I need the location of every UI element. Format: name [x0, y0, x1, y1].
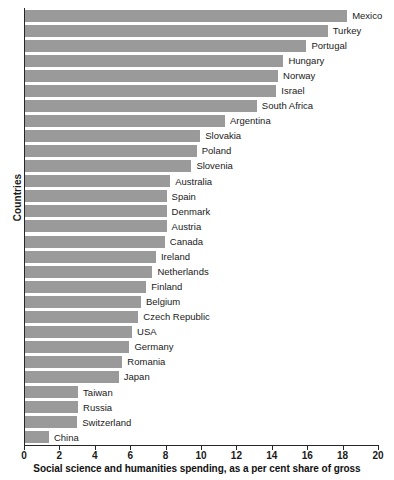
- x-tick-label: 18: [337, 451, 348, 461]
- bar-row: Portugal: [25, 38, 347, 53]
- bar-category-label: Canada: [165, 237, 203, 247]
- bar-category-label: Australia: [170, 177, 212, 187]
- bar-row: Mexico: [25, 8, 382, 23]
- bar: [25, 10, 347, 22]
- bar: [25, 100, 257, 112]
- x-tick-label: 12: [231, 451, 242, 461]
- bar: [25, 416, 77, 428]
- bar-category-label: Norway: [278, 71, 315, 81]
- bar-category-label: China: [49, 433, 79, 443]
- bar-row: Netherlands: [25, 264, 209, 279]
- bar-row: USA: [25, 324, 157, 339]
- bar-row: Belgium: [25, 294, 180, 309]
- x-tick-label: 14: [266, 451, 277, 461]
- bar-row: Slovenia: [25, 159, 233, 174]
- bar-row: Slovakia: [25, 129, 241, 144]
- bar-row: South Africa: [25, 98, 313, 113]
- bar: [25, 160, 191, 172]
- bar-category-label: Poland: [197, 146, 232, 156]
- plot-area: MexicoTurkeyPortugalHungaryNorwayIsraelS…: [24, 8, 378, 445]
- bar-category-label: Ireland: [156, 252, 190, 262]
- bar-category-label: Finland: [146, 282, 182, 292]
- bar: [25, 251, 156, 263]
- bar: [25, 296, 141, 308]
- bar: [25, 175, 170, 187]
- bar-row: Russia: [25, 400, 112, 415]
- bar-row: Taiwan: [25, 385, 113, 400]
- bars-layer: MexicoTurkeyPortugalHungaryNorwayIsraelS…: [25, 8, 379, 445]
- bar-category-label: Portugal: [306, 41, 346, 51]
- horizontal-bar-chart: Countries MexicoTurkeyPortugalHungaryNor…: [0, 0, 394, 480]
- bar-row: Argentina: [25, 113, 271, 128]
- bar: [25, 281, 146, 293]
- x-tick-label: 6: [127, 451, 133, 461]
- bar: [25, 326, 132, 338]
- bar-category-label: Hungary: [283, 56, 324, 66]
- bar-category-label: USA: [132, 327, 157, 337]
- bar: [25, 190, 167, 202]
- bar-category-label: Russia: [78, 403, 112, 413]
- bar-row: Japan: [25, 370, 150, 385]
- bar: [25, 236, 165, 248]
- bar: [25, 266, 152, 278]
- bar-row: Czech Republic: [25, 309, 210, 324]
- bar-row: Spain: [25, 189, 196, 204]
- bar-category-label: Romania: [122, 357, 165, 367]
- bar-category-label: Israel: [276, 86, 304, 96]
- bar-row: Switzerland: [25, 415, 131, 430]
- bar: [25, 115, 225, 127]
- bar-category-label: Switzerland: [77, 418, 131, 428]
- bar-row: Austria: [25, 219, 201, 234]
- bar-category-label: Japan: [119, 372, 150, 382]
- bar-category-label: Netherlands: [152, 267, 208, 277]
- bar-row: Denmark: [25, 204, 210, 219]
- bar-category-label: Czech Republic: [138, 312, 210, 322]
- bar-row: Australia: [25, 174, 212, 189]
- bar: [25, 401, 78, 413]
- bar-category-label: South Africa: [257, 101, 313, 111]
- bar: [25, 70, 278, 82]
- bar: [25, 386, 78, 398]
- bar-row: Romania: [25, 355, 165, 370]
- bar-row: Hungary: [25, 53, 324, 68]
- bar-category-label: Austria: [167, 222, 202, 232]
- bar-category-label: Argentina: [225, 116, 271, 126]
- x-tick-label: 4: [92, 451, 98, 461]
- bar: [25, 25, 328, 37]
- bar-category-label: Turkey: [328, 26, 362, 36]
- bar: [25, 311, 138, 323]
- bar: [25, 40, 306, 52]
- x-tick-label: 16: [302, 451, 313, 461]
- bar: [25, 130, 200, 142]
- y-axis-title: Countries: [12, 148, 23, 248]
- bar-row: China: [25, 430, 79, 445]
- bar: [25, 220, 167, 232]
- x-tick-label: 0: [21, 451, 27, 461]
- bar-category-label: Mexico: [347, 11, 382, 21]
- bar: [25, 145, 197, 157]
- bar-row: Norway: [25, 68, 315, 83]
- bar: [25, 55, 283, 67]
- bar: [25, 205, 167, 217]
- x-tick-label: 20: [372, 451, 383, 461]
- bar: [25, 371, 119, 383]
- bar-category-label: Slovenia: [191, 161, 232, 171]
- bar-category-label: Spain: [167, 192, 196, 202]
- bar-row: Israel: [25, 83, 305, 98]
- bar-row: Poland: [25, 144, 231, 159]
- bar-category-label: Denmark: [167, 207, 211, 217]
- bar: [25, 85, 276, 97]
- x-axis-title: Social science and humanities spending, …: [0, 463, 394, 474]
- bar-row: Germany: [25, 340, 174, 355]
- bar-category-label: Belgium: [141, 297, 180, 307]
- bar: [25, 341, 129, 353]
- x-tick-label: 8: [163, 451, 169, 461]
- bar: [25, 431, 49, 443]
- bar-row: Ireland: [25, 249, 190, 264]
- bar-row: Canada: [25, 234, 203, 249]
- bar-row: Turkey: [25, 23, 361, 38]
- x-tick-label: 2: [57, 451, 63, 461]
- bar-category-label: Slovakia: [200, 131, 241, 141]
- bar-row: Finland: [25, 279, 182, 294]
- bar-category-label: Germany: [129, 342, 173, 352]
